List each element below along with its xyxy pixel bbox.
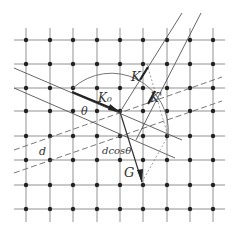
g-arrowhead-icon bbox=[137, 169, 143, 183]
diagram: K₀ K K' G θ d dcosθ bbox=[0, 0, 233, 231]
lattice-diagram bbox=[0, 0, 233, 231]
construction-line-2 bbox=[142, 136, 168, 182]
label-g: G bbox=[124, 166, 134, 179]
label-k-prime: K' bbox=[150, 92, 162, 104]
label-dcos-theta: dcosθ bbox=[102, 146, 131, 156]
k-arrow bbox=[140, 67, 148, 80]
label-k: K bbox=[131, 70, 141, 83]
diffracted-line-2 bbox=[136, 13, 201, 140]
label-theta: θ bbox=[81, 106, 88, 117]
label-d: d bbox=[39, 146, 46, 157]
lattice-grid bbox=[14, 28, 225, 222]
label-k0: K₀ bbox=[98, 92, 112, 104]
